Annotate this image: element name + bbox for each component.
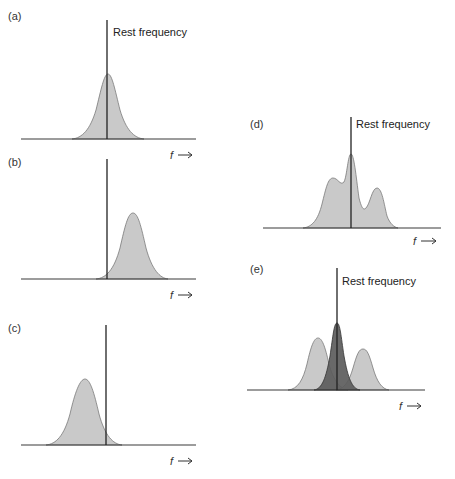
panel-a-profile	[72, 74, 144, 139]
svg-text:f: f	[170, 289, 174, 301]
panel-a-frequency-axis-label: f	[170, 149, 192, 161]
svg-text:f: f	[170, 455, 174, 467]
panel-d-frequency-axis-label: f	[413, 235, 436, 247]
panel-e-label: (e)	[250, 263, 263, 275]
arrow-right-icon	[178, 152, 192, 158]
svg-text:f: f	[170, 149, 174, 161]
arrow-right-icon	[178, 292, 192, 298]
arrow-right-icon	[407, 403, 421, 409]
panel-b-frequency-axis-label: f	[170, 289, 192, 301]
panel-e-frequency-axis-label: f	[399, 400, 421, 412]
panel-e: (e) Rest frequency f	[247, 263, 425, 412]
panel-b: (b) f	[8, 156, 196, 301]
panel-d-label: (d)	[250, 118, 263, 130]
svg-text:f: f	[399, 400, 403, 412]
panel-c-label: (c)	[8, 322, 21, 334]
panel-e-rest-label: Rest frequency	[342, 275, 416, 287]
panel-c-frequency-axis-label: f	[170, 455, 192, 467]
spectral-line-figure: (a) Rest frequency f (b) f (c)	[0, 0, 455, 479]
arrow-right-icon	[178, 458, 192, 464]
panel-c-profile	[46, 379, 122, 445]
panel-a-label: (a)	[8, 10, 21, 22]
panel-a: (a) Rest frequency f	[8, 10, 196, 161]
panel-c: (c) f	[8, 322, 196, 467]
panel-a-rest-label: Rest frequency	[113, 26, 187, 38]
panel-d: (d) Rest frequency f	[250, 117, 441, 247]
svg-text:f: f	[413, 235, 417, 247]
panel-b-label: (b)	[8, 156, 21, 168]
panel-d-rest-label: Rest frequency	[356, 118, 430, 130]
arrow-right-icon	[421, 238, 436, 244]
